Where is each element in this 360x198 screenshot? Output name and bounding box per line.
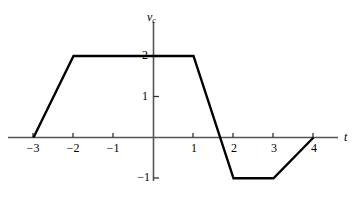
y-tick-marks xyxy=(154,56,160,178)
x-axis-label: t xyxy=(344,131,347,143)
y-tick-label-2: 2 xyxy=(128,49,148,61)
x-tick-label--3: −3 xyxy=(19,142,47,154)
x-tick-label--2: −2 xyxy=(59,142,87,154)
waveform-figure: −3 −2 −1 1 2 3 4 2 1 −1 vc t xyxy=(0,0,360,198)
y-axis-label-subscript: c xyxy=(152,16,156,25)
waveform-curve xyxy=(34,56,314,178)
x-tick-label-4: 4 xyxy=(300,142,328,154)
y-axis-label: vc xyxy=(147,11,156,23)
x-tick-label-1: 1 xyxy=(180,142,208,154)
y-tick-label--1: −1 xyxy=(130,171,150,183)
plot-canvas xyxy=(0,0,360,198)
x-tick-label--1: −1 xyxy=(99,142,127,154)
x-tick-label-2: 2 xyxy=(220,142,248,154)
y-tick-label-1: 1 xyxy=(128,90,148,102)
x-tick-label-3: 3 xyxy=(260,142,288,154)
